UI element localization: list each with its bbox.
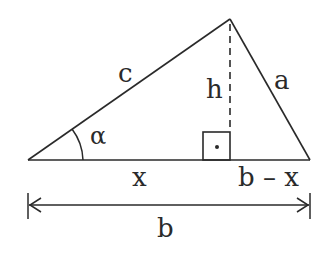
label-segment-b-minus-x: b – x	[238, 162, 299, 192]
right-angle-dot	[215, 145, 219, 149]
label-height-h: h	[206, 74, 223, 104]
label-angle-alpha: α	[90, 122, 106, 150]
triangle-diagram: c a h α x b – x b	[0, 0, 336, 261]
label-base-b: b	[157, 213, 174, 243]
label-segment-x: x	[132, 162, 147, 192]
side-a-line	[230, 19, 310, 160]
side-c-line	[28, 19, 230, 160]
label-side-a: a	[274, 65, 290, 95]
label-side-c: c	[118, 58, 133, 88]
angle-alpha-arc	[72, 129, 83, 160]
